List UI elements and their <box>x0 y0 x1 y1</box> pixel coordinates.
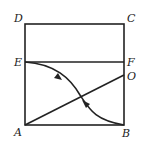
curve-be <box>25 62 124 125</box>
label-c: C <box>127 12 136 25</box>
square-abcd <box>25 24 124 125</box>
label-o: O <box>127 70 136 83</box>
segment-ao <box>25 75 124 125</box>
label-a: A <box>13 126 22 139</box>
label-d: D <box>13 12 23 25</box>
label-e: E <box>13 56 22 69</box>
label-b: B <box>121 127 130 140</box>
geometry-diagram: D C E F O A B <box>0 0 142 146</box>
label-f: F <box>126 56 135 69</box>
